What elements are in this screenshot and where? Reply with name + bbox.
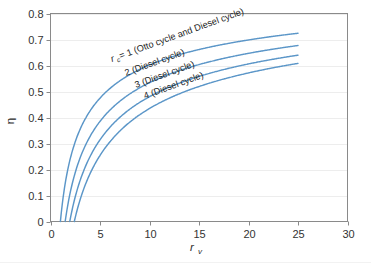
- chart-background: [0, 0, 371, 266]
- y-axis-title-symbol: η: [4, 118, 16, 124]
- y-tick-label: 0: [37, 216, 43, 228]
- y-tick-label: 0.4: [28, 112, 43, 124]
- x-tick-label: 25: [292, 228, 304, 240]
- x-tick-label: 30: [342, 228, 354, 240]
- x-tick-label: 5: [97, 228, 103, 240]
- y-tick-label: 0.1: [28, 190, 43, 202]
- y-tick-label: 0.3: [28, 138, 43, 150]
- scan-artifact-line: [0, 262, 371, 263]
- x-tick-label: 10: [144, 228, 156, 240]
- x-tick-label: 15: [193, 228, 205, 240]
- y-tick-label: 0.5: [28, 86, 43, 98]
- y-tick-label: 0.8: [28, 8, 43, 20]
- efficiency-vs-compression-ratio-chart: 00.10.20.30.40.50.60.70.8 051015202530 r…: [0, 0, 371, 266]
- y-axis-tick-labels: 00.10.20.30.40.50.60.70.8: [28, 8, 43, 228]
- y-tick-label: 0.7: [28, 34, 43, 46]
- y-axis-title: η: [4, 118, 16, 124]
- y-tick-label: 0.6: [28, 60, 43, 72]
- figure-container: 00.10.20.30.40.50.60.70.8 051015202530 r…: [0, 0, 371, 266]
- x-tick-label: 20: [243, 228, 255, 240]
- y-tick-label: 0.2: [28, 164, 43, 176]
- x-tick-label: 0: [48, 228, 54, 240]
